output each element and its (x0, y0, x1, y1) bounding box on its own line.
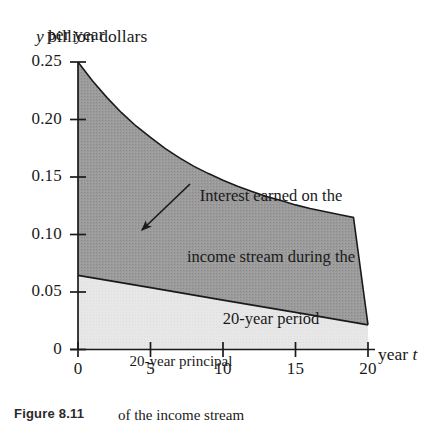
y-tick-label-0.25: 0.25 (0, 51, 62, 71)
x-axis-variable: t (413, 344, 418, 364)
y-tick-label-0.20: 0.20 (0, 109, 62, 129)
y-axis-title-line2: per year (47, 23, 105, 46)
y-axis-variable: y (36, 26, 44, 46)
figure-caption: Figure 8.11 (14, 406, 84, 421)
principal-annotation-line1: 20-year principal (86, 352, 276, 370)
interest-annotation-line1: Interest earned on the (146, 186, 396, 206)
y-tick-label-0.05: 0.05 (0, 281, 62, 301)
y-tick-label-0.10: 0.10 (0, 224, 62, 244)
interest-annotation-line2: income stream during the (146, 247, 396, 267)
principal-annotation: 20-year principal of the income stream (86, 316, 276, 421)
y-tick-label-0: 0 (0, 339, 62, 359)
y-tick-label-0.15: 0.15 (0, 166, 62, 186)
figure-container: y billion dollars per year 0 0.05 0.10 0… (0, 0, 445, 421)
principal-annotation-line2: of the income stream (86, 406, 276, 421)
